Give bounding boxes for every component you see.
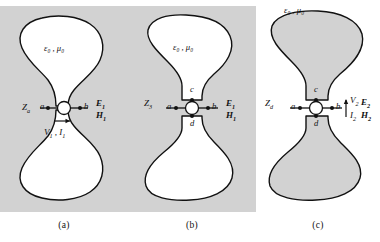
panel-b: ε₀ , μ₀ Z3 a b c d E1 H1 (b) <box>128 0 256 242</box>
voltage-current-label-a: V1 , I1 <box>44 128 65 139</box>
field-h-label-a: H1 <box>96 111 106 122</box>
impedance-label-c: Zd <box>265 99 273 110</box>
terminal-dot-a-right <box>78 106 82 110</box>
terminal-label-a-right: b <box>84 102 88 111</box>
terminal-dot-b-right <box>206 106 210 110</box>
caption-c: (c) <box>256 220 380 230</box>
terminal-label-b-left: a <box>167 102 171 111</box>
upper-region-a <box>20 16 103 106</box>
field-e-label-a: E1 <box>96 99 105 110</box>
waveguide-aperture-figure: ε₀ , μ₀ Za a b E1 H1 V1 , I1 (a) <box>0 0 380 242</box>
terminal-dot-b-left <box>174 106 178 110</box>
terminal-label-c-left: a <box>291 102 295 111</box>
terminal-label-c-right: b <box>336 102 340 111</box>
voltage-label-c: V2 <box>350 96 359 107</box>
terminal-label-b-bottom: d <box>190 119 194 128</box>
terminal-label-b-top: c <box>190 85 194 94</box>
voltage-arrow-c <box>344 99 348 117</box>
panel-c: ε₀ , μ₀ Zd a b c d V2 I2 E2 H2 <box>256 0 380 242</box>
field-e-label-c: E2 <box>361 98 370 109</box>
panel-a-drawing <box>0 0 128 216</box>
source-circle-c <box>310 102 323 115</box>
terminal-label-c-top: c <box>314 85 318 94</box>
caption-b: (b) <box>128 220 256 230</box>
terminal-label-c-bottom: d <box>314 119 318 128</box>
source-circle-a <box>58 102 71 115</box>
terminal-dot-a-left <box>46 106 50 110</box>
terminal-dot-c-left <box>298 106 302 110</box>
current-label-c: I2 <box>350 111 356 122</box>
lower-region-b <box>145 116 233 200</box>
lower-region-c <box>269 116 361 200</box>
impedance-label-a: Za <box>22 103 30 114</box>
medium-label-b: ε₀ , μ₀ <box>173 43 193 52</box>
medium-label-a: ε₀ , μ₀ <box>44 44 64 53</box>
field-h-label-c: H2 <box>361 111 371 122</box>
terminal-dot-c-right <box>330 106 334 110</box>
medium-label-c: ε₀ , μ₀ <box>284 6 304 15</box>
lower-region-a <box>20 110 103 200</box>
caption-a: (a) <box>0 220 128 230</box>
impedance-label-b: Z3 <box>144 99 152 110</box>
field-h-label-b: H1 <box>226 111 236 122</box>
terminal-label-b-right: b <box>212 102 216 111</box>
source-circle-b <box>186 102 199 115</box>
panel-a: ε₀ , μ₀ Za a b E1 H1 V1 , I1 (a) <box>0 0 128 242</box>
terminal-label-a-left: a <box>40 102 44 111</box>
field-e-label-b: E1 <box>226 99 235 110</box>
